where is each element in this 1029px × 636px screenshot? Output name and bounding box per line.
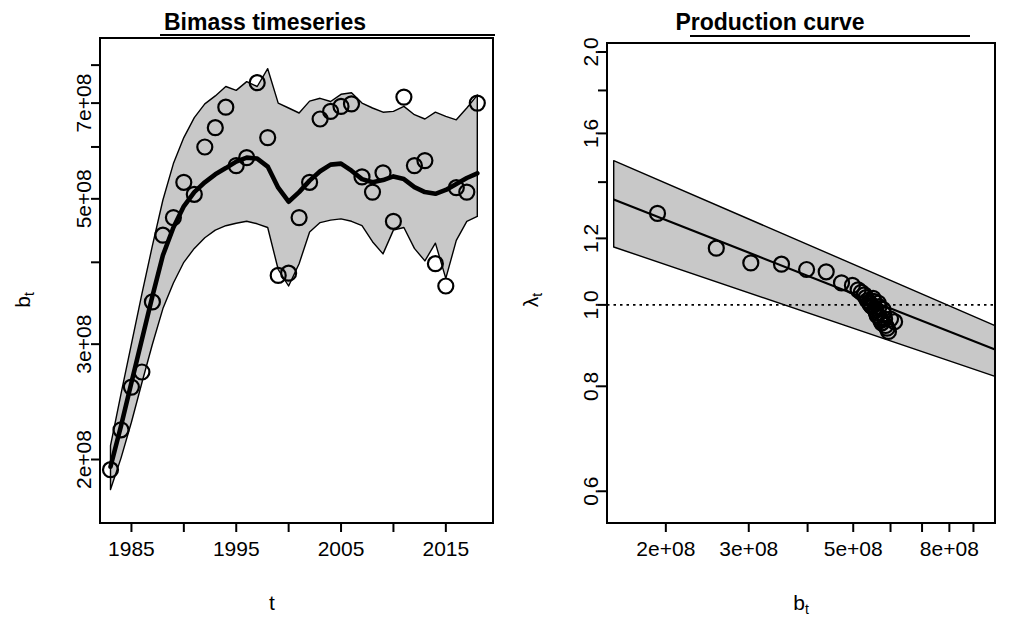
biomass-timeseries-panel: Bimass timeseries 2e+083e+085e+087e+0819…	[0, 0, 520, 636]
svg-text:bt: bt	[11, 292, 37, 308]
biomass-y-axis-label: bt	[11, 292, 37, 308]
svg-text:λt: λt	[520, 293, 545, 308]
biomass-y-tick-label: 5e+08	[73, 169, 96, 228]
biomass-x-tick-label: 2005	[318, 537, 365, 560]
production-x-tick-label: 5e+08	[824, 537, 883, 560]
biomass-x-tick-label: 2015	[422, 537, 469, 560]
production-chart-title: Production curve	[675, 9, 864, 35]
biomass-y-tick-label: 7e+08	[73, 74, 96, 133]
production-y-tick-label: 1.6	[580, 119, 603, 148]
biomass-timeseries-svg: Bimass timeseries 2e+083e+085e+087e+0819…	[0, 0, 520, 636]
production-curve-svg: Production curve 0.60.81.01.21.62.02e+08…	[520, 0, 1029, 636]
production-x-tick-label: 8e+08	[920, 537, 979, 560]
biomass-chart-title: Bimass timeseries	[164, 9, 366, 35]
production-fit-line	[614, 199, 995, 349]
production-y-tick-label: 1.0	[580, 290, 603, 319]
production-plot-area	[607, 161, 995, 377]
production-x-axis-label: bt	[793, 591, 809, 617]
production-credible-interval-band	[614, 161, 995, 377]
biomass-data-point	[396, 90, 411, 105]
biomass-x-tick-label: 1985	[108, 537, 155, 560]
production-y-axis-label: λt	[520, 293, 545, 308]
biomass-data-point	[438, 279, 453, 294]
production-y-tick-label: 0.6	[580, 477, 603, 506]
production-y-tick-label: 0.8	[580, 372, 603, 401]
production-curve-panel: Production curve 0.60.81.01.21.62.02e+08…	[520, 0, 1029, 636]
production-x-tick-label: 3e+08	[719, 537, 778, 560]
figure-panel-pair: Bimass timeseries 2e+083e+085e+087e+0819…	[0, 0, 1029, 636]
biomass-y-tick-label: 2e+08	[73, 430, 96, 489]
biomass-plot-area	[103, 69, 485, 490]
biomass-y-tick-label: 3e+08	[73, 315, 96, 374]
production-x-tick-label: 2e+08	[636, 537, 695, 560]
biomass-x-axis-label: t	[269, 591, 275, 614]
biomass-x-tick-label: 1995	[213, 537, 260, 560]
production-y-tick-label: 2.0	[580, 37, 603, 66]
biomass-data-point	[428, 256, 443, 271]
production-y-tick-label: 1.2	[580, 224, 603, 253]
